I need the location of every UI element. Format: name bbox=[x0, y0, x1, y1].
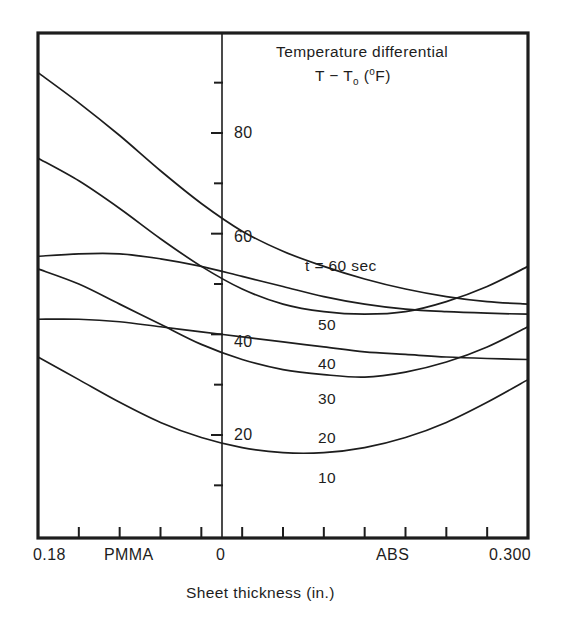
x-tick-label-0-300: 0.300 bbox=[489, 547, 531, 563]
curve-label-10: 10 bbox=[318, 470, 336, 486]
x-tick-label-zero: 0 bbox=[216, 547, 225, 563]
chart-title-line1: Temperature differential bbox=[276, 44, 448, 60]
x-axis-caption: Sheet thickness (in.) bbox=[186, 585, 335, 601]
chart-plot-area bbox=[0, 0, 568, 617]
title-t-minus-to: T − T bbox=[315, 67, 353, 84]
curve-label-20: 20 bbox=[318, 430, 336, 446]
curve-label-30: 30 bbox=[318, 391, 336, 407]
x-tick-label-0-18: 0.18 bbox=[33, 547, 66, 563]
x-tick-label-pmma: PMMA bbox=[104, 547, 154, 563]
title-f-unit: F) bbox=[375, 67, 390, 84]
curve-label-60sec: t = 60 sec bbox=[305, 258, 377, 274]
title-paren-open: ( bbox=[359, 67, 369, 84]
curve-label-40: 40 bbox=[318, 356, 336, 372]
y-tick-label-20: 20 bbox=[234, 427, 253, 443]
plot-frame bbox=[38, 33, 528, 538]
y-tick-label-60: 60 bbox=[234, 229, 253, 245]
curve-label-50: 50 bbox=[318, 317, 336, 333]
chart-title-line2: T − To (oF) bbox=[315, 67, 391, 87]
y-tick-label-40: 40 bbox=[234, 334, 253, 350]
y-tick-label-80: 80 bbox=[234, 125, 253, 141]
x-tick-label-abs: ABS bbox=[376, 547, 409, 563]
chart-figure: Temperature differential T − To (oF) 80 … bbox=[0, 0, 568, 617]
